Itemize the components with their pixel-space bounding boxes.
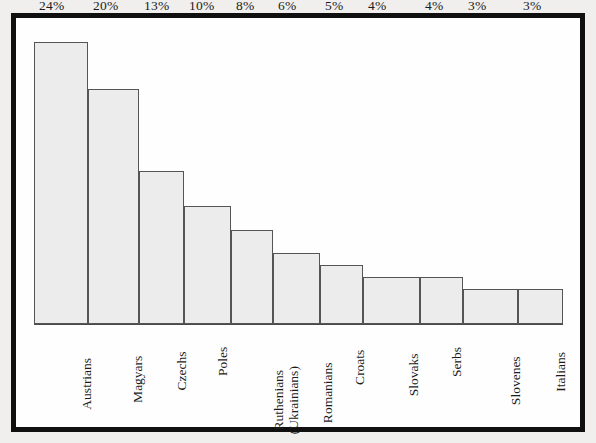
category-label-cell: Austrians bbox=[34, 328, 88, 426]
bar-cell: 8% bbox=[231, 18, 273, 324]
bar-value-label: 4% bbox=[420, 0, 444, 14]
bar-value-label: 20% bbox=[88, 0, 119, 14]
bar[interactable]: 13% bbox=[139, 171, 184, 324]
bar-value-label: 24% bbox=[34, 0, 65, 14]
chart-frame: 24%20%13%10%8%6%5%4%4%3%3% AustriansMagy… bbox=[11, 13, 585, 432]
category-label-cell: Serbs bbox=[420, 328, 463, 426]
bar-cell: 3% bbox=[518, 18, 563, 324]
category-label-cell: Slovaks bbox=[363, 328, 420, 426]
category-label-cell: Slovenes bbox=[463, 328, 518, 426]
bar-value-label: 10% bbox=[184, 0, 215, 14]
x-axis-line bbox=[34, 324, 563, 325]
category-label-cell: Italians bbox=[518, 328, 563, 426]
category-label-line: Slovaks bbox=[405, 353, 420, 396]
bar-value-label: 4% bbox=[363, 0, 387, 14]
bar[interactable]: 6% bbox=[273, 253, 320, 324]
category-label-cell: Romanians bbox=[273, 328, 320, 426]
bar-cell: 3% bbox=[463, 18, 518, 324]
category-label-cell: Croats bbox=[320, 328, 363, 426]
bar-value-label: 5% bbox=[320, 0, 344, 14]
category-label-cell: Czechs bbox=[139, 328, 184, 426]
category-label-cell: Ruthenians(Ukrainians) bbox=[231, 328, 273, 426]
category-label: Poles bbox=[215, 347, 230, 376]
category-label-cell: Magyars bbox=[88, 328, 139, 426]
category-label-cell: Poles bbox=[184, 328, 231, 426]
bar-cell: 4% bbox=[420, 18, 463, 324]
category-label-line: Italians bbox=[553, 352, 568, 392]
bar-value-label: 8% bbox=[231, 0, 255, 14]
bar[interactable]: 4% bbox=[420, 277, 463, 324]
bar-value-label: 13% bbox=[139, 0, 170, 14]
bar-cell: 10% bbox=[184, 18, 231, 324]
category-labels-container: AustriansMagyarsCzechsPolesRuthenians(Uk… bbox=[34, 328, 563, 426]
bar-value-label: 3% bbox=[518, 0, 542, 14]
bar-cell: 13% bbox=[139, 18, 184, 324]
bar-cell: 4% bbox=[363, 18, 420, 324]
bar-value-label: 6% bbox=[273, 0, 297, 14]
bar-cell: 6% bbox=[273, 18, 320, 324]
category-label-line: Poles bbox=[215, 347, 230, 376]
bar[interactable]: 20% bbox=[88, 89, 139, 324]
category-label-line: Serbs bbox=[449, 347, 464, 377]
bar[interactable]: 5% bbox=[320, 265, 363, 324]
bar-value-label: 3% bbox=[463, 0, 487, 14]
bar[interactable]: 10% bbox=[184, 206, 231, 324]
bar-cell: 24% bbox=[34, 18, 88, 324]
bar[interactable]: 8% bbox=[231, 230, 273, 324]
bar[interactable]: 3% bbox=[463, 289, 518, 324]
bar[interactable]: 24% bbox=[34, 42, 88, 324]
category-label: Slovaks bbox=[405, 353, 420, 396]
bar-cell: 5% bbox=[320, 18, 363, 324]
bar-cell: 20% bbox=[88, 18, 139, 324]
bars-container: 24%20%13%10%8%6%5%4%4%3%3% bbox=[34, 18, 563, 324]
category-label: Italians bbox=[553, 352, 568, 392]
bar[interactable]: 3% bbox=[518, 289, 563, 324]
plot-area: 24%20%13%10%8%6%5%4%4%3%3% AustriansMagy… bbox=[16, 18, 580, 427]
bar[interactable]: 4% bbox=[363, 277, 420, 324]
category-label: Serbs bbox=[449, 347, 464, 377]
